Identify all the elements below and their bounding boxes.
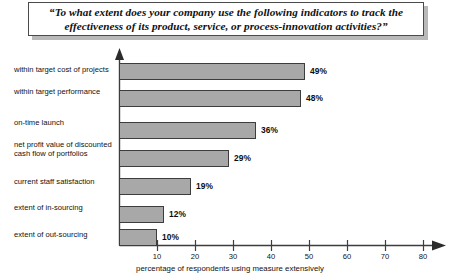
xtick-label-5: 60 [335, 252, 359, 261]
bar-4 [119, 178, 191, 195]
category-label-5: extent of in-sourcing [14, 203, 116, 212]
chart-plot-area: within target cost of projects within ta… [0, 46, 460, 274]
bar-value-0: 49% [310, 66, 327, 76]
xtick-label-2: 30 [221, 252, 245, 261]
bar-value-5: 12% [169, 209, 186, 219]
bar-value-6: 10% [162, 232, 179, 242]
bar-value-1: 48% [306, 93, 323, 103]
xtick-label-4: 50 [297, 252, 321, 261]
bar-2 [119, 122, 256, 139]
category-label-1: within target performance [14, 87, 116, 96]
category-label-0: within target cost of projects [14, 65, 116, 74]
category-label-6: extent of out-sourcing [14, 230, 116, 239]
bar-value-3: 29% [234, 153, 251, 163]
xaxis-title: percentage of respondents using measure … [0, 264, 460, 273]
xtick-label-3: 40 [259, 252, 283, 261]
xtick-label-1: 20 [183, 252, 207, 261]
category-label-3: net profit value of discounted cash flow… [14, 140, 116, 158]
category-label-2: on-time launch [14, 118, 116, 127]
chart-title-box: “To what extent does your company use th… [28, 2, 424, 36]
bar-5 [119, 206, 164, 223]
xtick-label-6: 70 [373, 252, 397, 261]
chart-axes [0, 46, 460, 274]
bar-3 [119, 150, 229, 167]
bar-value-4: 19% [196, 181, 213, 191]
bar-value-2: 36% [261, 125, 278, 135]
xtick-label-7: 80 [411, 252, 435, 261]
category-label-4: current staff satisfaction [14, 177, 116, 186]
bar-1 [119, 90, 301, 107]
page-title: “To what extent does your company use th… [29, 3, 423, 35]
xtick-label-0: 10 [145, 252, 169, 261]
bar-0 [119, 63, 305, 80]
bar-6 [119, 229, 157, 246]
